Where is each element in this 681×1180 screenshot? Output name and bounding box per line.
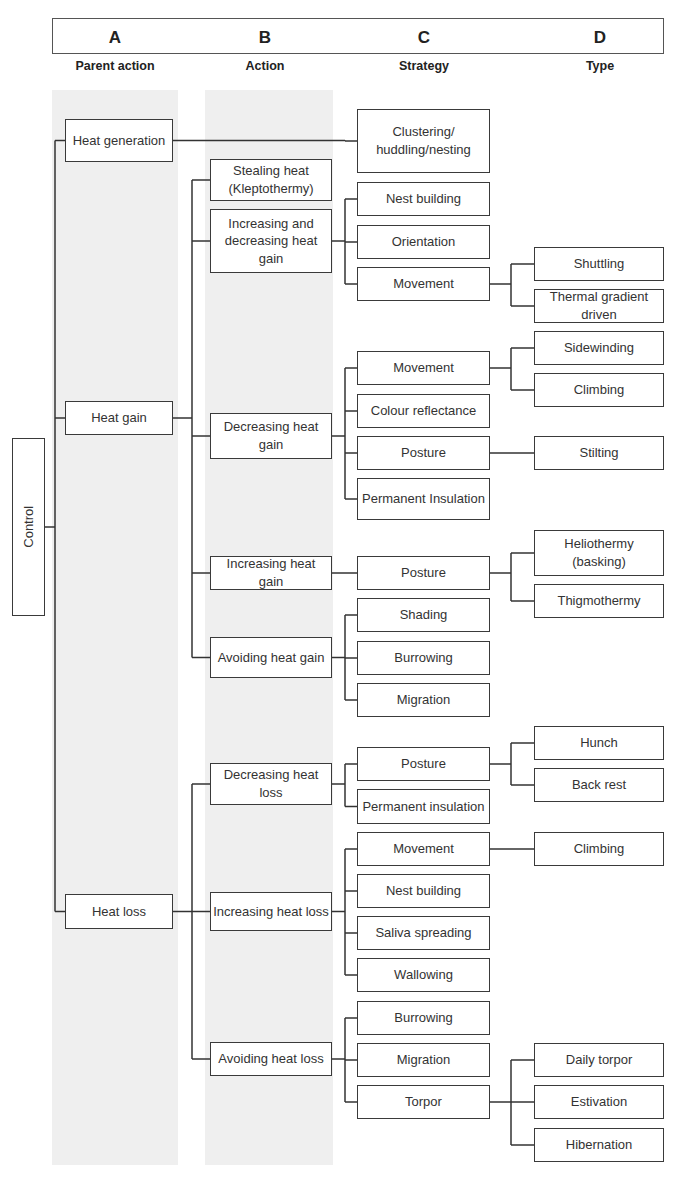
node-a3: Heat loss xyxy=(65,894,173,929)
node-d2: Thermal gradient driven xyxy=(534,289,664,323)
node-c14: Permanent insulation xyxy=(357,789,490,824)
column-letter-d: D xyxy=(580,28,620,48)
node-d13: Hibernation xyxy=(534,1128,664,1162)
node-c5: Movement xyxy=(357,351,490,385)
node-a2: Heat gain xyxy=(65,401,173,435)
column-label-strategy: Strategy xyxy=(364,59,484,73)
node-c13: Posture xyxy=(357,747,490,781)
node-c15: Movement xyxy=(357,832,490,866)
node-d12: Estivation xyxy=(534,1085,664,1119)
node-d9: Back rest xyxy=(534,768,664,802)
node-c16: Nest building xyxy=(357,874,490,908)
root-node-label: Control xyxy=(20,506,38,548)
node-d1: Shuttling xyxy=(534,247,664,281)
node-d11: Daily torpor xyxy=(534,1043,664,1077)
node-a1: Heat generation xyxy=(65,119,173,162)
node-c7: Posture xyxy=(357,436,490,470)
node-b5: Avoiding heat gain xyxy=(210,637,332,678)
root-node-control: Control xyxy=(12,438,45,616)
node-c11: Burrowing xyxy=(357,641,490,675)
node-c6: Colour reflectance xyxy=(357,394,490,428)
column-letter-c: C xyxy=(404,28,444,48)
column-label-action: Action xyxy=(205,59,325,73)
node-c10: Shading xyxy=(357,598,490,632)
node-d8: Hunch xyxy=(534,726,664,760)
node-d3: Sidewinding xyxy=(534,331,664,365)
node-d4: Climbing xyxy=(534,373,664,407)
node-b6: Decreasing heat loss xyxy=(210,763,332,805)
column-letter-b: B xyxy=(245,28,285,48)
node-c20: Migration xyxy=(357,1043,490,1077)
node-c12: Migration xyxy=(357,683,490,717)
node-b4: Increasing heat gain xyxy=(210,556,332,590)
node-c4: Movement xyxy=(357,267,490,301)
column-letter-a: A xyxy=(95,28,135,48)
node-c18: Wallowing xyxy=(357,958,490,992)
node-b1: Stealing heat (Kleptothermy) xyxy=(210,159,332,201)
node-c1: Clustering/ huddling/nesting xyxy=(357,109,490,173)
node-d10: Climbing xyxy=(534,832,664,866)
node-c9: Posture xyxy=(357,556,490,590)
node-c21: Torpor xyxy=(357,1085,490,1119)
column-label-type: Type xyxy=(540,59,660,73)
node-c3: Orientation xyxy=(357,225,490,259)
node-b8: Avoiding heat loss xyxy=(210,1042,332,1076)
node-b2: Increasing and decreasing heat gain xyxy=(210,209,332,273)
node-d5: Stilting xyxy=(534,436,664,470)
node-c2: Nest building xyxy=(357,182,490,216)
node-d7: Thigmothermy xyxy=(534,584,664,618)
column-header-box xyxy=(52,18,664,54)
node-b3: Decreasing heat gain xyxy=(210,413,332,459)
node-b7: Increasing heat loss xyxy=(210,892,332,931)
column-label-parent-action: Parent action xyxy=(55,59,175,73)
node-c19: Burrowing xyxy=(357,1001,490,1035)
node-c17: Saliva spreading xyxy=(357,916,490,950)
node-c8: Permanent Insulation xyxy=(357,478,490,520)
node-d6: Heliothermy (basking) xyxy=(534,530,664,576)
